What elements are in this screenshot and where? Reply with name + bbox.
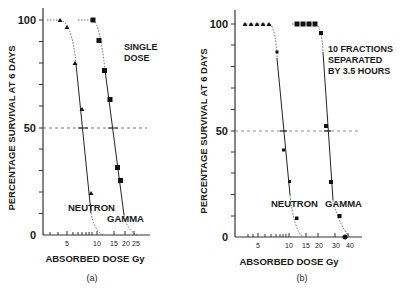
annotation-line-1: 10 FRACTIONS xyxy=(328,44,393,54)
neutron-series: NEUTRON xyxy=(243,22,319,237)
neutron-series: NEUTRON xyxy=(47,18,115,235)
panel-a: 100 50 0 5 10 15 20 25 PERCENTAGE SURVIV… xyxy=(6,8,158,283)
square-marker xyxy=(91,18,96,23)
panel-b: 100 50 0 5 10 15 20 30 40 PERCENTAGE SUR… xyxy=(198,10,393,283)
y-axis-title: PERCENTAGE SURVIVAL AT 6 DAYS xyxy=(198,48,209,213)
neutron-label: NEUTRON xyxy=(68,202,115,213)
x-tick-5: 5 xyxy=(65,240,69,247)
neutron-label: NEUTRON xyxy=(271,198,318,209)
square-marker xyxy=(324,124,328,128)
y-axis-title: PERCENTAGE SURVIVAL AT 6 DAYS xyxy=(6,45,17,210)
marker xyxy=(343,235,348,240)
marker xyxy=(288,180,291,183)
marker xyxy=(276,51,279,54)
square-marker xyxy=(319,31,323,35)
x-axis-title: ABSORBED DOSE Gy xyxy=(239,256,339,267)
y-tick-100: 100 xyxy=(18,14,36,26)
x-tick-15: 15 xyxy=(302,242,310,249)
square-marker xyxy=(97,38,102,43)
square-marker xyxy=(118,178,123,183)
x-tick-25: 25 xyxy=(132,240,140,247)
triangle-marker xyxy=(65,25,70,29)
survival-figure: 100 50 0 5 10 15 20 25 PERCENTAGE SURVIV… xyxy=(0,0,404,295)
square-marker xyxy=(313,22,318,27)
square-marker xyxy=(108,97,113,102)
y-tick-100: 100 xyxy=(210,18,228,30)
annotation-line-1: SINGLE xyxy=(124,42,158,52)
square-marker xyxy=(338,214,342,218)
square-marker xyxy=(295,22,300,27)
annotation-line-3: BY 3.5 HOURS xyxy=(328,66,390,76)
gamma-label: GAMMA xyxy=(325,198,362,209)
square-marker xyxy=(329,180,333,184)
x-tick-30: 30 xyxy=(332,242,340,249)
x-tick-10: 10 xyxy=(93,240,101,247)
square-marker xyxy=(102,68,107,73)
annotation-line-2: DOSE xyxy=(124,53,150,63)
x-tick-5: 5 xyxy=(256,242,260,249)
x-tick-20: 20 xyxy=(315,242,323,249)
panel-caption: (a) xyxy=(87,273,98,283)
y-tick-50: 50 xyxy=(24,122,36,134)
x-tick-20: 20 xyxy=(122,240,130,247)
square-marker xyxy=(301,22,306,27)
square-marker xyxy=(115,165,120,170)
gamma-label: GAMMA xyxy=(107,213,144,224)
triangle-marker xyxy=(58,18,63,22)
triangle-marker xyxy=(73,61,78,65)
marker xyxy=(295,217,299,221)
y-tick-50: 50 xyxy=(216,125,228,137)
y-tick-0: 0 xyxy=(30,229,36,241)
marker xyxy=(282,149,285,152)
x-tick-40: 40 xyxy=(346,242,354,249)
panel-caption: (b) xyxy=(297,273,308,283)
x-tick-10: 10 xyxy=(285,242,293,249)
x-axis-title: ABSORBED DOSE Gy xyxy=(45,253,145,264)
x-tick-15: 15 xyxy=(110,240,118,247)
y-tick-0: 0 xyxy=(222,231,228,243)
square-marker xyxy=(307,22,312,27)
annotation-line-2: SEPARATED xyxy=(328,55,383,65)
